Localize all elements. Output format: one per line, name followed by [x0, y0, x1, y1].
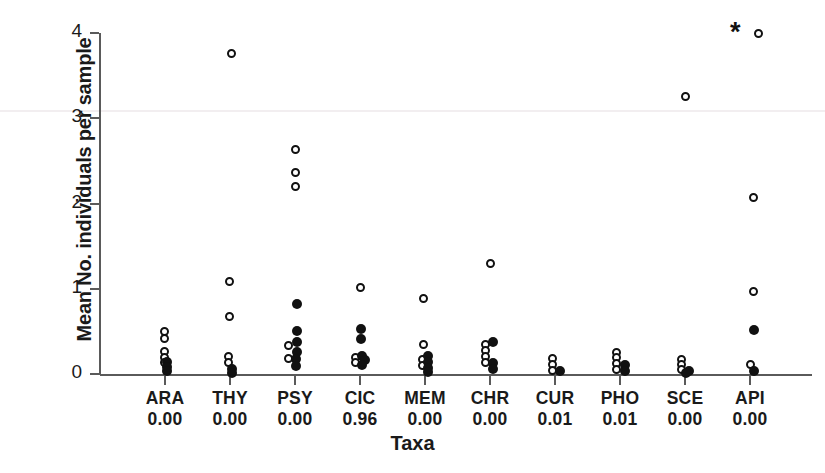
data-point-open [291, 182, 300, 191]
data-point-open [419, 294, 428, 303]
data-point-open [486, 259, 495, 268]
taxon-pvalue: 0.00 [705, 409, 795, 430]
y-tick-mark [90, 203, 99, 205]
data-point-filled [749, 366, 759, 376]
x-tick-mark [359, 376, 361, 385]
data-point-open [291, 168, 300, 177]
data-point-filled [292, 326, 302, 336]
data-point-filled [681, 368, 691, 378]
y-tick-label: 4 [56, 20, 82, 42]
data-point-open [749, 193, 758, 202]
data-point-open [356, 283, 365, 292]
y-axis-title: Mean No. individuals per sample [73, 10, 96, 370]
x-tick-mark [619, 376, 621, 385]
y-tick-mark [90, 32, 99, 34]
data-point-filled [555, 366, 565, 376]
data-point-open [681, 92, 690, 101]
y-tick-label: 0 [56, 361, 82, 383]
data-point-filled [488, 364, 498, 374]
data-point-filled [488, 337, 498, 347]
data-point-open [291, 145, 300, 154]
data-point-filled [356, 324, 366, 334]
x-axis-title: Taxa [0, 432, 825, 455]
x-tick-mark [554, 376, 556, 385]
y-tick-label: 2 [56, 191, 82, 213]
scatter-plot-figure: Mean No. individuals per sample 01234 AR… [0, 0, 825, 473]
x-tick-mark [489, 376, 491, 385]
x-tick-mark [424, 376, 426, 385]
data-point-filled [292, 299, 302, 309]
data-point-filled [292, 337, 302, 347]
data-point-open [227, 49, 236, 58]
data-point-filled [227, 368, 237, 378]
data-point-open [225, 277, 234, 286]
y-tick-mark [90, 288, 99, 290]
data-point-open [225, 312, 234, 321]
y-tick-label: 1 [56, 276, 82, 298]
y-tick-mark [90, 117, 99, 119]
x-tick-mark [294, 376, 296, 385]
data-point-open [749, 287, 758, 296]
data-point-open [160, 334, 169, 343]
y-tick-mark [90, 373, 99, 375]
data-point-filled [620, 366, 630, 376]
data-point-filled [356, 334, 366, 344]
data-point-filled [357, 360, 367, 370]
data-point-filled [749, 325, 759, 335]
data-point-open [419, 340, 428, 349]
significance-asterisk: * [730, 19, 741, 46]
taxon-label: API [705, 388, 795, 409]
scan-line-artifact [0, 110, 825, 112]
x-category-group-api: API0.00 [705, 388, 795, 430]
y-axis-line [99, 33, 101, 375]
x-tick-mark [749, 376, 751, 385]
y-tick-label: 3 [56, 105, 82, 127]
x-axis-line [100, 374, 812, 376]
x-tick-mark [164, 376, 166, 385]
data-point-filled [291, 361, 301, 371]
data-point-open [754, 29, 763, 38]
